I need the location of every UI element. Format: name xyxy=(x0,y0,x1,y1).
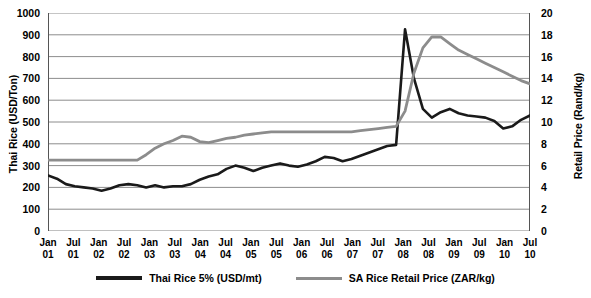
series-line-sa-retail xyxy=(48,37,530,160)
right-axis-tick-0: 0 xyxy=(541,225,581,237)
right-axis-tick-18: 18 xyxy=(541,29,581,41)
legend-entry-thai-rice[interactable]: Thai Rice 5% (USD/mt) xyxy=(96,272,262,284)
right-axis-tick-16: 16 xyxy=(541,51,581,63)
right-axis-tick-10: 10 xyxy=(541,116,581,128)
legend-label: Thai Rice 5% (USD/mt) xyxy=(149,272,262,284)
right-axis-tick-20: 20 xyxy=(541,7,581,19)
left-axis-tick-400: 400 xyxy=(0,138,40,150)
left-axis-tick-100: 100 xyxy=(0,203,40,215)
right-axis-tick-2: 2 xyxy=(541,203,581,215)
x-axis-tick-jul-10: Jul10 xyxy=(510,237,550,260)
right-axis-tick-12: 12 xyxy=(541,94,581,106)
left-axis-tick-300: 300 xyxy=(0,160,40,172)
left-axis-tick-800: 800 xyxy=(0,51,40,63)
left-axis-tick-900: 900 xyxy=(0,29,40,41)
legend-label: SA Rice Retail Price (ZAR/kg) xyxy=(349,272,495,284)
plot-area xyxy=(48,13,530,231)
legend-swatch-icon xyxy=(296,277,342,280)
right-axis-tick-8: 8 xyxy=(541,138,581,150)
left-axis-tick-700: 700 xyxy=(0,72,40,84)
chart-legend: Thai Rice 5% (USD/mt)SA Rice Retail Pric… xyxy=(0,272,591,284)
left-axis-tick-600: 600 xyxy=(0,94,40,106)
right-axis-tick-14: 14 xyxy=(541,72,581,84)
right-axis-tick-4: 4 xyxy=(541,181,581,193)
legend-swatch-icon xyxy=(96,276,142,280)
x-tick-year: 10 xyxy=(510,249,550,261)
plot-svg xyxy=(48,13,530,231)
series-line-thai-rice xyxy=(48,29,530,190)
right-axis-tick-6: 6 xyxy=(541,160,581,172)
left-axis-tick-200: 200 xyxy=(0,181,40,193)
left-axis-tick-0: 0 xyxy=(0,225,40,237)
x-tick-month: Jul xyxy=(510,237,550,249)
rice-price-chart: Thai Rice (USD/Ton) Retail Price (Rand/k… xyxy=(0,0,591,298)
legend-entry-sa-retail[interactable]: SA Rice Retail Price (ZAR/kg) xyxy=(296,272,495,284)
left-axis-tick-500: 500 xyxy=(0,116,40,128)
left-axis-tick-1000: 1000 xyxy=(0,7,40,19)
